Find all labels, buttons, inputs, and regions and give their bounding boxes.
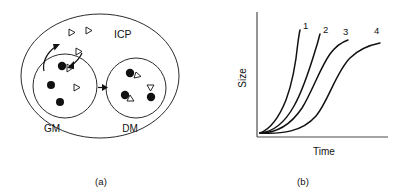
gm-dot-3 <box>58 62 66 70</box>
curve-2 <box>260 34 320 133</box>
growth-curves-chart-svg: Size Time 1 2 3 4 <box>202 0 404 170</box>
gm-label: GM <box>44 123 60 134</box>
panel-b-caption: (b) <box>202 176 404 187</box>
efflux-arrow-head <box>53 44 60 51</box>
dm-dot-1 <box>126 69 134 77</box>
gm-dot-1 <box>47 81 55 89</box>
figure-container: ICP GM DM <box>0 0 404 193</box>
dm-triangle-1 <box>134 72 141 78</box>
curve-3-label: 3 <box>343 26 348 37</box>
curve-1-label: 1 <box>303 20 308 31</box>
dm-dot-3 <box>147 93 155 101</box>
gm-dot-2 <box>56 98 64 106</box>
compartment-diagram-svg: ICP GM DM <box>0 0 202 170</box>
curve-3 <box>260 40 348 133</box>
panel-a-diagram: ICP GM DM <box>0 0 202 193</box>
efflux-arrow-line <box>44 47 55 71</box>
y-axis-label: Size <box>237 68 248 88</box>
icp-label: ICP <box>114 28 132 40</box>
panel-a-caption: (a) <box>0 176 202 187</box>
curve-4-label: 4 <box>374 25 379 36</box>
dm-compartment-circle <box>106 58 166 118</box>
free-triangle-icp-2 <box>86 27 92 34</box>
panel-b-chart: Size Time 1 2 3 4 (b) <box>202 0 404 193</box>
dm-label: DM <box>122 123 138 134</box>
transfer-arrow-head <box>102 84 108 91</box>
curve-4 <box>260 43 380 133</box>
free-triangle-icp-1 <box>69 29 75 36</box>
gm-triangle-2 <box>74 84 80 91</box>
dm-dot-2 <box>121 91 129 99</box>
dm-triangle-3 <box>147 85 154 91</box>
curve-2-label: 2 <box>323 24 328 35</box>
icp-outer-boundary <box>21 14 179 138</box>
x-axis-label: Time <box>313 146 335 157</box>
